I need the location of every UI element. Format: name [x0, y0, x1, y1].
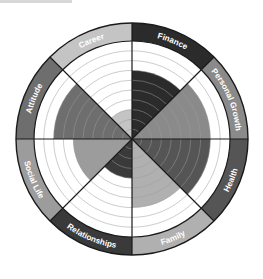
wheel-of-life-diagram: FinancePersonal GrowthHealthFamilyRelati… — [0, 0, 263, 279]
